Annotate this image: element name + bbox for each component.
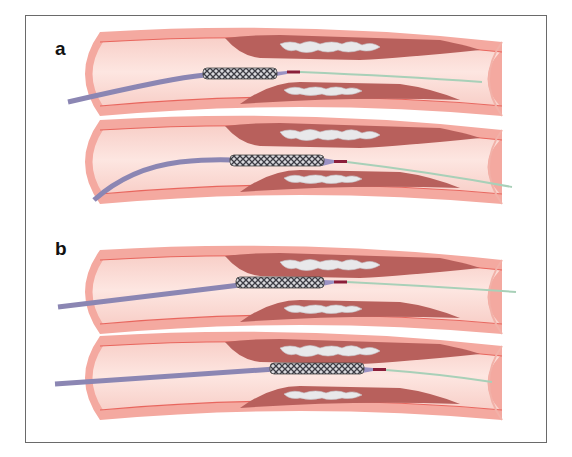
vessel-b2 (55, 332, 502, 420)
vessel-a2 (85, 116, 512, 204)
vessel-b1 (58, 246, 516, 334)
vessel-a1 (68, 28, 502, 116)
stent-illustration (0, 0, 572, 457)
